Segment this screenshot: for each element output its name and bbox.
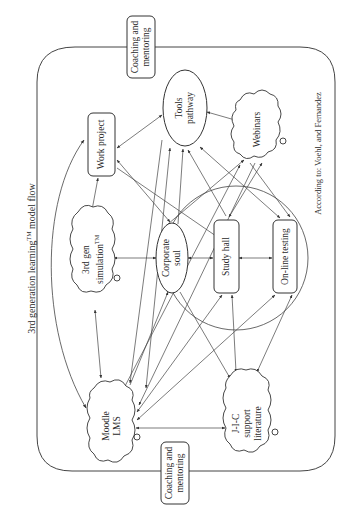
model-flow-diagram: 3rd generation learningTM model flow Acc… bbox=[0, 0, 357, 525]
jic-tail-icon bbox=[272, 429, 278, 435]
jic-line1: J-I-C bbox=[231, 394, 242, 454]
simulation-tm: TM bbox=[94, 235, 100, 244]
coaching-label-bottom: Coaching andmentoring bbox=[164, 443, 186, 503]
tools-line2: pathway bbox=[185, 78, 196, 138]
corporate-soul-label: Corporatesoul bbox=[161, 228, 183, 288]
figure-credit: According to: Voehl, and Fernandez bbox=[313, 64, 324, 244]
coaching-bottom-line2: mentoring bbox=[175, 443, 186, 503]
tools-pathway-label: Toolspathway bbox=[174, 78, 196, 138]
simulation-line2: simulation bbox=[95, 244, 105, 284]
tools-line1: Tools bbox=[174, 78, 185, 138]
coaching-top-line1: Coaching and bbox=[130, 17, 141, 77]
simulation-line1: 3rd gen bbox=[81, 230, 92, 290]
work-project-label: Work project bbox=[96, 115, 107, 175]
study-hall-label: Study hall bbox=[221, 227, 232, 287]
title-main: 3rd generation learning bbox=[26, 241, 37, 334]
moodle-line2: LMS bbox=[112, 396, 123, 456]
title-suffix: model flow bbox=[26, 183, 37, 231]
figure-title: 3rd generation learningTM model flow bbox=[24, 169, 37, 349]
jic-literature-label: J-I-Csupportliterature bbox=[231, 394, 264, 454]
jic-line2: support bbox=[242, 394, 253, 454]
corporate-line1: Corporate bbox=[161, 228, 172, 288]
moodle-lms-label: MoodleLMS bbox=[101, 396, 123, 456]
title-tm: TM bbox=[26, 232, 32, 241]
coaching-top-line2: mentoring bbox=[141, 17, 152, 77]
moodle-line1: Moodle bbox=[101, 396, 112, 456]
simulation-label: 3rd gensimulationTM bbox=[81, 230, 106, 290]
webinars-tail-icon bbox=[280, 138, 286, 144]
corporate-line2: soul bbox=[172, 228, 183, 288]
jic-line3: literature bbox=[253, 394, 264, 454]
moodle-tail-icon bbox=[134, 434, 140, 440]
coaching-label-top: Coaching andmentoring bbox=[130, 17, 152, 77]
simulation-tail-icon bbox=[114, 275, 120, 281]
online-testing-label: On-line testing bbox=[280, 222, 291, 292]
coaching-bottom-line1: Coaching and bbox=[164, 443, 175, 503]
webinars-label: Webinars bbox=[252, 100, 263, 160]
